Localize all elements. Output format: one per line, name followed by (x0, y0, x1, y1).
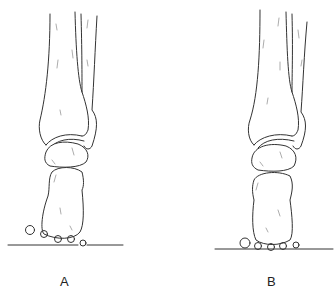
ankle-drawing-a (0, 0, 168, 293)
fibula-outline (81, 14, 82, 92)
panel-b: B (168, 0, 336, 293)
panel-label-b: B (267, 274, 276, 289)
calcaneus (253, 173, 293, 245)
tibia-outline (39, 14, 50, 145)
panel-a: A (0, 0, 168, 293)
calcaneus (42, 168, 84, 239)
ankle-drawing-b (168, 0, 336, 293)
talus (45, 142, 88, 167)
panel-label-a: A (60, 274, 69, 289)
tibia-outline (248, 10, 260, 145)
talus (252, 145, 296, 172)
